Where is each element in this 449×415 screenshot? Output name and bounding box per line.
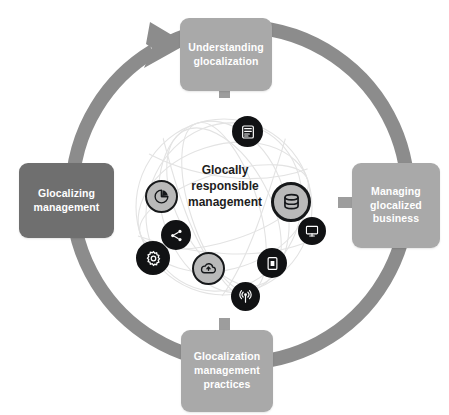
server-rack-icon[interactable] <box>232 116 263 147</box>
node-box-line3: business <box>370 212 422 226</box>
node-box-line1: Glocalization <box>194 350 261 364</box>
monitor-icon[interactable] <box>298 217 326 245</box>
node-box-line1: Managing <box>370 185 422 199</box>
node-box-glocalization-management-practices[interactable]: Glocalization management practices <box>181 330 273 412</box>
tablet-device-icon[interactable] <box>257 248 287 278</box>
node-box-line2: glocalization <box>188 55 263 69</box>
node-box-managing-glocalized-business[interactable]: Managing glocalized business <box>352 163 440 248</box>
broadcast-antenna-icon[interactable] <box>231 282 260 311</box>
pie-chart-icon[interactable] <box>145 180 178 213</box>
node-box-line2: glocalized <box>370 199 422 213</box>
node-box-line1: Understanding <box>188 41 263 55</box>
node-box-glocalizing-management[interactable]: Glocalizing management <box>19 163 114 238</box>
node-box-line3: practices <box>194 378 261 392</box>
node-box-line2: management <box>34 201 100 215</box>
node-box-line1: Glocalizing <box>34 187 100 201</box>
node-box-line2: management <box>194 364 261 378</box>
share-network-icon[interactable] <box>161 220 191 250</box>
database-icon[interactable] <box>271 182 311 222</box>
node-box-understanding-glocalization[interactable]: Understanding glocalization <box>180 18 272 91</box>
diagram-canvas: Understanding glocalization Managing glo… <box>0 0 449 415</box>
gear-settings-icon[interactable] <box>136 241 170 275</box>
cloud-icon[interactable] <box>192 252 225 285</box>
